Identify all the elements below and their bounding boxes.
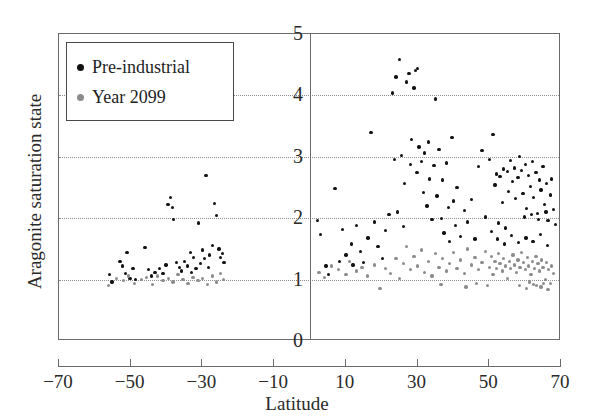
scatter-point (422, 191, 425, 194)
x-axis-tick-label: 30 (407, 372, 426, 391)
scatter-point (417, 145, 420, 148)
scatter-point (450, 136, 453, 139)
scatter-point (206, 283, 209, 286)
scatter-point (391, 91, 394, 94)
scatter-point (459, 258, 462, 261)
legend-marker-icon (77, 94, 84, 101)
scatter-point (542, 282, 545, 285)
scatter-point (151, 283, 154, 286)
scatter-point (319, 233, 322, 236)
x-axis-tick-label: 50 (479, 372, 498, 391)
scatter-point (530, 213, 533, 216)
scatter-point (171, 280, 174, 283)
legend-item-pre-industrial: Pre-industrial (77, 52, 233, 82)
y-axis-title: Aragonite saturation state (25, 62, 44, 322)
y-axis-tick-label: 4 (293, 84, 303, 104)
x-axis-tick-label: −10 (258, 372, 288, 391)
scatter-point (355, 269, 358, 272)
scatter-point (454, 224, 457, 227)
scatter-point (161, 272, 164, 275)
scatter-point (366, 274, 369, 277)
scatter-point (207, 266, 210, 269)
scatter-point (516, 176, 519, 179)
scatter-point (540, 258, 543, 261)
scatter-point (527, 174, 530, 177)
scatter-point (536, 212, 539, 215)
scatter-point (435, 194, 438, 197)
gridline (59, 157, 559, 158)
scatter-point (384, 229, 387, 232)
scatter-point (378, 287, 381, 290)
scatter-point (480, 261, 483, 264)
scatter-point (420, 248, 423, 251)
scatter-point (486, 284, 489, 287)
scatter-point (219, 256, 222, 259)
scatter-point (527, 264, 530, 267)
scatter-point (348, 260, 351, 263)
scatter-point (118, 260, 121, 263)
scatter-point (107, 284, 110, 287)
scatter-point (488, 158, 491, 161)
scatter-point (533, 267, 536, 270)
x-axis-tick-mark (417, 359, 418, 367)
scatter-point (528, 280, 531, 283)
scatter-point (376, 245, 379, 248)
scatter-point (323, 276, 326, 279)
scatter-point (330, 264, 333, 267)
scatter-point (432, 164, 435, 167)
scatter-point (518, 284, 521, 287)
scatter-point (191, 276, 194, 279)
scatter-point (145, 276, 148, 279)
scatter-point (186, 282, 189, 285)
scatter-point (402, 225, 405, 228)
scatter-point (211, 244, 214, 247)
scatter-point (488, 266, 491, 269)
x-axis-tick-mark (201, 359, 202, 367)
scatter-point (513, 263, 516, 266)
scatter-point (546, 288, 549, 291)
scatter-point (420, 160, 423, 163)
scatter-point (439, 283, 442, 286)
scatter-point (403, 182, 406, 185)
scatter-point (110, 280, 113, 283)
scatter-point (164, 263, 167, 266)
scatter-point (497, 221, 500, 224)
x-axis-title: Latitude (0, 394, 594, 413)
scatter-point (546, 219, 549, 222)
scatter-point (538, 178, 541, 181)
x-axis-tick-label: −70 (43, 372, 73, 391)
scatter-point (498, 175, 501, 178)
scatter-point (423, 151, 426, 154)
scatter-point (491, 133, 494, 136)
y-axis-tick-label: 5 (293, 23, 303, 43)
scatter-point (192, 256, 195, 259)
scatter-point (534, 171, 537, 174)
scatter-point (394, 75, 397, 78)
scatter-point (470, 263, 473, 266)
scatter-point (531, 240, 534, 243)
scatter-point (541, 266, 544, 269)
scatter-point (437, 266, 440, 269)
scatter-point (515, 271, 518, 274)
scatter-point (466, 247, 469, 250)
scatter-point (369, 131, 372, 134)
scatter-point (537, 218, 540, 221)
scatter-point (459, 235, 462, 238)
scatter-point (407, 72, 410, 75)
scatter-point (524, 268, 527, 271)
scatter-point (524, 236, 527, 239)
scatter-point (544, 278, 547, 281)
scatter-point (522, 261, 525, 264)
legend-item-label: Year 2099 (92, 88, 166, 106)
y-axis-tick-label: 1 (293, 269, 303, 289)
scatter-point (208, 253, 211, 256)
x-axis-tick-mark (345, 359, 346, 367)
x-axis-tick-mark (58, 359, 59, 367)
scatter-point (394, 257, 397, 260)
scatter-point (150, 274, 153, 277)
scatter-point (452, 199, 455, 202)
scatter-point (507, 190, 510, 193)
x-axis-tick-label: −30 (187, 372, 217, 391)
scatter-point (509, 267, 512, 270)
scatter-point (517, 241, 520, 244)
